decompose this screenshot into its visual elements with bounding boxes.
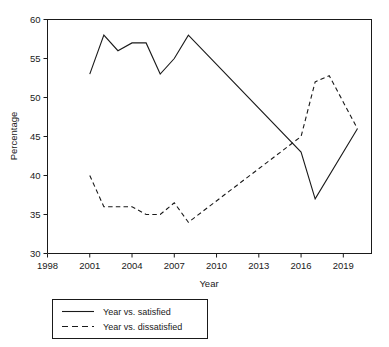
x-tick-label: 2001 — [79, 260, 100, 271]
y-axis-tick-labels: 30354045505560 — [30, 14, 41, 259]
x-tick-label: 2010 — [206, 260, 227, 271]
y-tick-label: 30 — [30, 248, 41, 259]
y-tick-label: 45 — [30, 131, 41, 142]
y-tick-label: 60 — [30, 14, 41, 25]
y-tick-label: 40 — [30, 170, 41, 181]
legend-border — [53, 300, 208, 339]
x-axis-title: Year — [199, 278, 218, 289]
legend-label-satisfied: Year vs. satisfied — [103, 307, 171, 317]
x-axis-ticks — [48, 254, 344, 258]
y-tick-label: 55 — [30, 53, 41, 64]
axes — [48, 19, 373, 254]
y-axis-title: Percentage — [8, 112, 19, 161]
series-line-year-vs-satisfied — [90, 35, 358, 199]
y-tick-label: 35 — [30, 209, 41, 220]
y-axis-ticks — [44, 20, 48, 254]
series-line-year-vs-dissatisfied — [90, 76, 358, 223]
y-tick-label: 50 — [30, 92, 41, 103]
x-tick-label: 1998 — [37, 260, 58, 271]
x-tick-label: 2004 — [121, 260, 142, 271]
data-series-layer — [90, 35, 358, 222]
chart-legend: Year vs. satisfied Year vs. dissatisfied — [53, 300, 208, 339]
legend-label-dissatisfied: Year vs. dissatisfied — [103, 322, 182, 332]
x-tick-label: 2016 — [290, 260, 311, 271]
x-tick-label: 2007 — [164, 260, 185, 271]
x-tick-label: 2013 — [248, 260, 269, 271]
x-tick-label: 2019 — [333, 260, 354, 271]
x-axis-tick-labels: 19982001200420072010201320162019 — [37, 260, 354, 271]
line-chart: 30354045505560 1998200120042007201020132… — [0, 0, 389, 347]
chart-container: 30354045505560 1998200120042007201020132… — [0, 0, 389, 347]
